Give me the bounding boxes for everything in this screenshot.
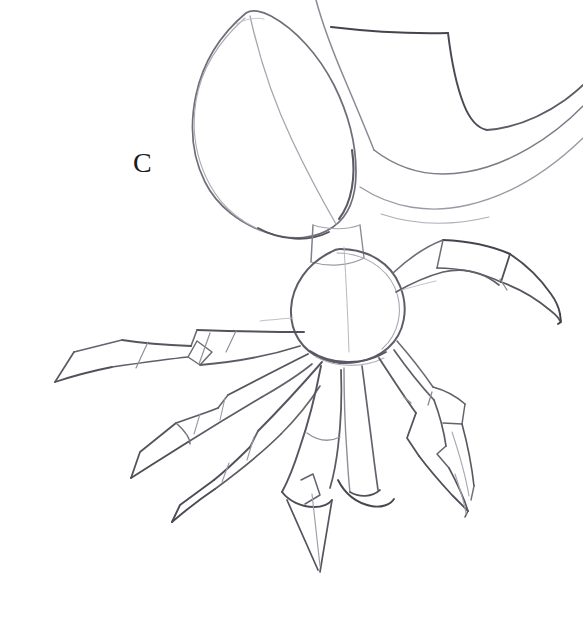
fin-tail-line [381, 214, 489, 223]
body-outline-double [337, 253, 399, 349]
fin-lower-curve [360, 138, 583, 209]
leg-cl-bottom-shape [338, 480, 394, 507]
leg-fr-shin [462, 424, 474, 486]
leg-ll-under-edge [215, 434, 281, 489]
leg-fr-upper [397, 341, 433, 387]
leg-cl-left-edge [344, 368, 350, 492]
leg-upper-right-box-top [443, 240, 510, 254]
leg-lr-shin [419, 456, 468, 511]
leg-mlu-under-edge [112, 357, 188, 367]
leg-ll-shin [214, 447, 250, 480]
leg-mll-tip-return [131, 442, 188, 478]
fin-top-edge [331, 27, 448, 33]
body-group [291, 247, 405, 365]
leg-upper-right-box-right [501, 254, 510, 282]
angular-fin-group [316, 0, 583, 223]
leg-mlu-second-left [74, 340, 122, 352]
leg-mll-second-top [176, 408, 218, 423]
leg-upper-right-box-left [437, 240, 443, 268]
leg-upper-right-claw-inner [501, 282, 560, 321]
construction-line-left-shoulder [260, 318, 293, 321]
leg-fr-knee-box [443, 404, 465, 424]
leg-lli-joint [307, 433, 340, 440]
leg-fr-mid [433, 387, 465, 404]
leaf-head-midrib [250, 16, 336, 224]
leg-cl-knee-line [350, 490, 380, 496]
construction-marks-group [236, 18, 436, 321]
leg-lr-upper-inner [394, 350, 434, 400]
leg-mid-left-lower-group [131, 354, 312, 478]
fin-right-edge [448, 33, 487, 130]
leg-cl-right-edge [362, 366, 378, 490]
leg-mlu-top-edge [197, 330, 304, 332]
leg-ll-body-under [281, 386, 320, 434]
leg-lli-foot-flap [301, 474, 320, 504]
leaf-head-outline-double [194, 18, 271, 234]
figure-label-c: C [133, 148, 152, 178]
sketch-canvas: C [0, 0, 583, 627]
leg-mll-under-edge [188, 397, 262, 442]
body-center-line [344, 247, 349, 352]
fin-inner-sweep [374, 106, 583, 174]
leg-lli-inner [330, 370, 341, 488]
neck-top-edge [313, 225, 360, 229]
fin-left-edge [316, 0, 374, 150]
neck-left-edge [311, 225, 313, 262]
leg-mll-left-point [131, 423, 176, 478]
leg-upper-right-underside [396, 270, 499, 292]
leg-lr-upper [379, 358, 416, 413]
leg-upper-right-claw-outer [510, 254, 560, 314]
body-outline [291, 249, 405, 363]
leaf-head-right-shade [339, 150, 353, 219]
leg-lr-claw-spur [437, 446, 449, 468]
leg-lr-knee [407, 413, 419, 456]
leg-mlu-body-under [200, 346, 300, 365]
leg-lli-spike-mid [312, 494, 320, 566]
leg-mll-joint-hook [176, 423, 190, 444]
leg-fr-tip [471, 486, 474, 500]
leg-lli-spike-right [320, 500, 332, 572]
fin-bottom-sweep [487, 85, 583, 130]
leg-upper-right-group [393, 240, 561, 324]
pencil-sketch-drawing [0, 0, 583, 627]
leg-upper-right-top [393, 240, 443, 273]
leg-center-lower-group [338, 366, 394, 507]
leg-mlu-second-top [122, 340, 191, 346]
